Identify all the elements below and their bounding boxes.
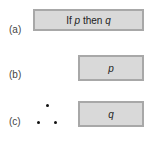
text-if: If (66, 15, 74, 26)
var-q: q (105, 15, 111, 26)
conclusion-q-box: q (78, 101, 144, 127)
row-c-label: (c) (9, 116, 21, 127)
row-b-label: (b) (9, 69, 21, 80)
premise-conditional-box: If p then q (33, 9, 144, 31)
premise-p-box: p (78, 55, 144, 81)
var-q: q (108, 109, 114, 120)
text-then: then (80, 15, 105, 26)
var-p: p (108, 63, 114, 74)
row-a-label: (a) (9, 24, 21, 35)
